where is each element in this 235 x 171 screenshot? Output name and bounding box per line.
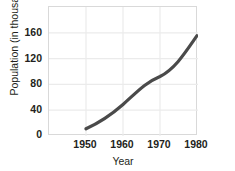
x-tick-label-1970: 1970 (139, 138, 179, 150)
y-tick-label-40: 40 (2, 103, 42, 115)
y-tick-label-120: 120 (2, 52, 42, 64)
chart-figure: Population (in thousands) 160 120 80 40 … (0, 0, 235, 171)
x-tick-label-1980: 1980 (176, 138, 216, 150)
x-tick-label-1960: 1960 (102, 138, 142, 150)
y-tick-label-160: 160 (2, 26, 42, 38)
data-series-population (86, 36, 197, 129)
gridlines (49, 7, 198, 136)
y-tick-label-0: 0 (2, 128, 42, 140)
y-tick-label-80: 80 (2, 77, 42, 89)
x-axis-title: Year (48, 155, 198, 167)
line-path (86, 36, 197, 129)
plot-area (48, 6, 197, 135)
chart-canvas (49, 7, 198, 136)
x-tick-label-1950: 1950 (65, 138, 105, 150)
